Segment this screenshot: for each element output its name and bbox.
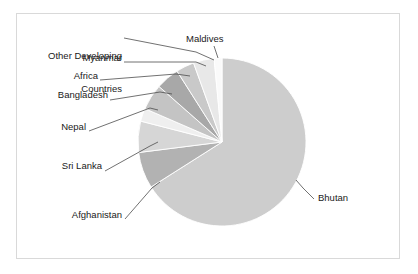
pie-label-africa: Africa bbox=[18, 70, 98, 81]
pie-label-myanmar: Myanmar bbox=[30, 52, 122, 63]
pie-slice-group bbox=[138, 58, 306, 226]
pie-label-nepal: Nepal bbox=[14, 121, 86, 132]
pie-label-maldives: Maldives bbox=[186, 33, 224, 44]
screenshot-root: Other Developing Countries Maldives Myan… bbox=[0, 0, 418, 274]
leader-line-maldives bbox=[214, 46, 218, 58]
pie-label-bhutan: Bhutan bbox=[318, 192, 348, 203]
pie-label-bangladesh: Bangladesh bbox=[10, 89, 108, 100]
leader-line-bhutan bbox=[296, 180, 314, 199]
pie-label-afghanistan: Afghanistan bbox=[18, 209, 122, 220]
pie-label-sri-lanka: Sri Lanka bbox=[10, 160, 102, 171]
pie-chart-plot-area: Other Developing Countries Maldives Myan… bbox=[0, 0, 418, 274]
